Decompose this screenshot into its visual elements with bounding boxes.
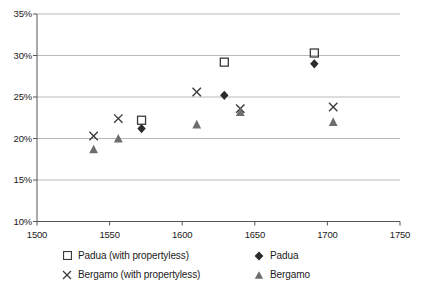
scatter-chart: 10%15%20%25%30%35% 150015501600165017001… (0, 0, 422, 295)
data-point (114, 114, 122, 122)
x-tick-label: 1650 (235, 230, 275, 240)
legend-item-bergamo: Bergamo (252, 268, 310, 282)
legend-label: Padua (with propertyless) (78, 250, 189, 262)
legend-label: Bergamo (270, 269, 310, 281)
data-point (89, 145, 98, 154)
y-tick-label: 15% (2, 175, 32, 185)
data-point (310, 59, 318, 68)
data-point (329, 103, 337, 111)
legend-item-padua: Padua (252, 249, 298, 263)
y-tick-label: 10% (2, 217, 32, 227)
x-tick-label: 1700 (307, 230, 347, 240)
y-tick-label: 35% (2, 9, 32, 19)
legend-label: Bergamo (with propertyless) (78, 269, 200, 281)
filled-diamond-icon (252, 249, 266, 263)
legend-item-padua-with-propertyless: Padua (with propertyless) (60, 249, 252, 263)
data-point (220, 58, 228, 66)
x-axis-ticks (37, 222, 400, 226)
open-square-icon (60, 249, 74, 263)
filled-triangle-icon (252, 268, 266, 282)
x-tick-label: 1550 (90, 230, 130, 240)
legend-item-bergamo-with-propertyless: Bergamo (with propertyless) (60, 268, 252, 282)
cross-x-icon (60, 268, 74, 282)
data-point (220, 91, 228, 100)
legend-row: Bergamo (with propertyless) Bergamo (60, 265, 370, 284)
data-point (137, 124, 145, 133)
data-point (192, 120, 201, 129)
legend-label: Padua (270, 250, 298, 262)
y-tick-label: 20% (2, 134, 32, 144)
y-axis-ticks (33, 14, 37, 222)
data-point (193, 88, 201, 96)
chart-legend: Padua (with propertyless) Padua Bergamo … (60, 246, 370, 284)
data-markers (89, 49, 337, 153)
gridlines (37, 14, 400, 222)
data-point (138, 116, 146, 124)
y-tick-label: 25% (2, 92, 32, 102)
x-tick-label: 1600 (162, 230, 202, 240)
legend-row: Padua (with propertyless) Padua (60, 246, 370, 265)
data-point (329, 117, 338, 126)
x-tick-label: 1750 (380, 230, 420, 240)
x-tick-label: 1500 (17, 230, 57, 240)
y-tick-label: 30% (2, 51, 32, 61)
